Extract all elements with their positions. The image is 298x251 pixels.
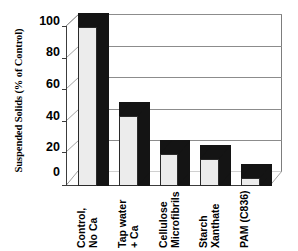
x-label-text-4: StarchXanthate xyxy=(198,204,221,248)
bar-series xyxy=(66,14,282,186)
x-label-line: Control, xyxy=(76,208,88,248)
bar-front-face-4 xyxy=(200,159,219,186)
x-label-line: + Ca xyxy=(128,200,140,248)
x-label-text-2: Tap water+ Ca xyxy=(117,200,140,248)
y-axis-tick-labels: 100 80 60 40 20 0 xyxy=(28,0,60,251)
bar-front-face-5 xyxy=(241,178,260,186)
x-label-line: Tap water xyxy=(117,200,129,248)
bar-1 xyxy=(78,13,97,186)
y-tick-label-40: 40 xyxy=(30,110,60,123)
bar-4 xyxy=(200,145,219,186)
bar-2 xyxy=(119,102,138,186)
bar-top-face-2 xyxy=(119,102,150,116)
bar-5 xyxy=(241,164,260,186)
bar-front-face-1 xyxy=(78,27,97,186)
y-axis-title: Suspended Solids (% of Control) xyxy=(13,20,24,182)
x-label-line: Cellulose xyxy=(158,191,170,248)
x-label-text-1: Control,No Ca xyxy=(76,208,99,248)
x-label-text-3: CelluloseMicrofibrils xyxy=(158,191,181,248)
bar-top-face-3 xyxy=(160,140,191,154)
bar-front-face-2 xyxy=(119,116,138,186)
bar-top-face-4 xyxy=(200,145,231,159)
y-tick-label-0: 0 xyxy=(30,166,60,179)
bar-top-face-5 xyxy=(241,164,272,178)
bar-front-face-3 xyxy=(160,154,179,186)
x-label-5: PAM (C836) xyxy=(239,188,298,250)
y-tick-label-100: 100 xyxy=(30,15,60,28)
x-label-line: No Ca xyxy=(88,208,100,248)
x-label-line: Xanthate xyxy=(210,204,222,248)
bar-3 xyxy=(160,140,179,186)
x-label-line: Microfibrils xyxy=(169,191,181,248)
bar-side-face-1 xyxy=(97,13,109,186)
y-tick-label-80: 80 xyxy=(30,46,60,59)
x-label-text-5: PAM (C836) xyxy=(239,190,251,248)
bar-chart: Suspended Solids (% of Control) 100 80 6… xyxy=(0,0,298,251)
x-label-line: PAM (C836) xyxy=(239,190,251,248)
bar-top-face-1 xyxy=(78,13,109,27)
y-tick-label-20: 20 xyxy=(30,141,60,154)
x-axis-category-labels: Control,No CaTap water+ CaCelluloseMicro… xyxy=(66,188,282,251)
y-tick-label-60: 60 xyxy=(30,78,60,91)
plot-area xyxy=(66,14,282,186)
